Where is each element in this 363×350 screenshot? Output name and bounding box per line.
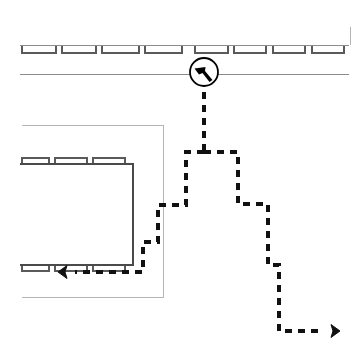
start-marker[interactable] xyxy=(190,58,218,86)
diagram-canvas: Parking lot route diagram xyxy=(0,0,363,350)
parking-route-diagram: Parking lot route diagram xyxy=(0,0,363,350)
